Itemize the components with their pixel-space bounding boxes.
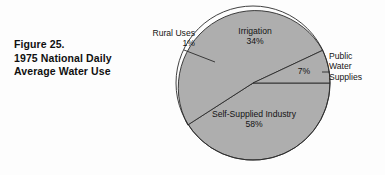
label-rural-uses-name: Rural Uses xyxy=(152,28,195,38)
label-irrigation: Irrigation 34% xyxy=(218,26,292,47)
label-self-supplied-industry-name: Self-Supplied Industry xyxy=(212,109,296,119)
label-rural-uses-value: 1% xyxy=(133,38,195,48)
pie-chart-svg xyxy=(0,0,385,175)
pie-chart: Irrigation 34% Self-Supplied Industry 58… xyxy=(0,0,385,175)
label-self-supplied-industry-value: 58% xyxy=(190,119,318,129)
label-rural-uses: Rural Uses 1% xyxy=(133,28,195,49)
figure-root: Figure 25. 1975 National Daily Average W… xyxy=(0,0,385,175)
label-public-water-supplies-line-3: Supplies xyxy=(329,72,383,82)
label-public-water-supplies-value: 7% xyxy=(293,66,315,76)
label-public-water-supplies-line-1: Public xyxy=(329,51,352,61)
label-irrigation-value: 34% xyxy=(218,36,292,46)
label-public-water-supplies-line-2: Water xyxy=(329,61,383,71)
label-irrigation-name: Irrigation xyxy=(238,26,271,36)
label-self-supplied-industry: Self-Supplied Industry 58% xyxy=(190,109,318,130)
label-public-water-supplies: Public Water Supplies xyxy=(329,51,383,82)
